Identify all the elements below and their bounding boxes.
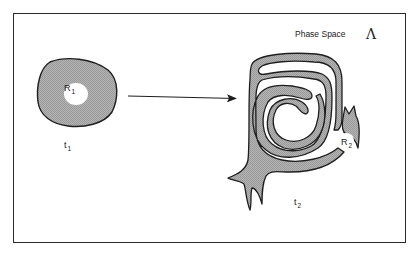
r2-letter: R	[341, 137, 348, 147]
r2-subscript: 2	[349, 142, 353, 149]
initial-region	[38, 59, 117, 127]
phase-space-title: Phase Space	[295, 29, 346, 39]
t2-letter: t	[294, 197, 297, 207]
r1-letter: R	[64, 83, 71, 93]
r1-subscript: 1	[72, 88, 76, 95]
t2-label: t2	[294, 197, 301, 207]
diagram-art	[0, 0, 418, 256]
t2-subscript: 2	[298, 202, 302, 209]
phase-space-figure: Phase Space Λ R1 t1 R2 t2	[0, 0, 418, 256]
t1-letter: t	[64, 140, 67, 150]
t1-subscript: 1	[68, 145, 72, 152]
r1-label: R1	[64, 83, 75, 93]
lambda-symbol: Λ	[366, 26, 376, 42]
evolved-region	[228, 53, 359, 210]
r2-label: R2	[341, 137, 352, 147]
t1-label: t1	[64, 140, 71, 150]
evolution-arrow	[128, 96, 236, 99]
